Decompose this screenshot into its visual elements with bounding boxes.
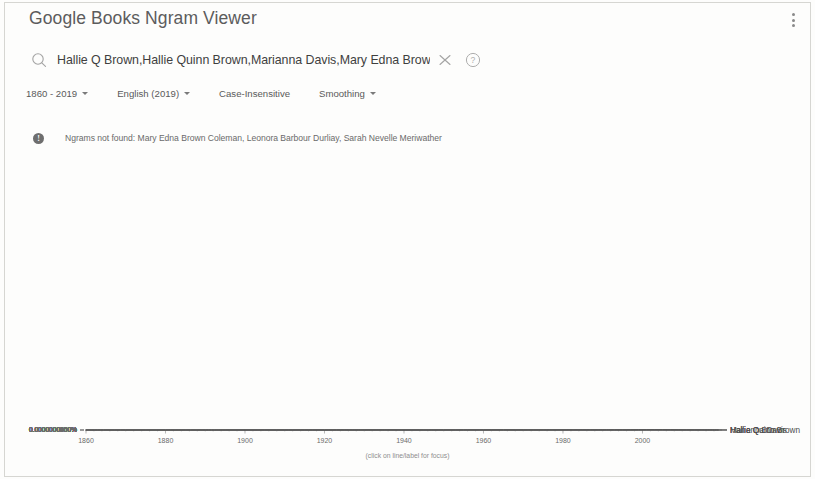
svg-text:?: ? <box>471 55 476 65</box>
search-bar: ? <box>29 47 484 73</box>
case-insensitive-label: Case-Insensitive <box>219 88 290 99</box>
series-label[interactable]: Hallie Q Brown <box>730 426 785 435</box>
x-tick-label: 1980 <box>555 437 571 444</box>
year-range-label: 1860 - 2019 <box>26 88 77 99</box>
page-background: Google Books Ngram Viewer ? <box>0 0 815 479</box>
x-tick-label: 1860 <box>78 437 94 444</box>
corpus-label: English (2019) <box>117 88 179 99</box>
page-title: Google Books Ngram Viewer <box>29 8 257 29</box>
chevron-down-icon <box>184 92 190 95</box>
x-tick-label: 1880 <box>158 437 174 444</box>
year-range-dropdown[interactable]: 1860 - 2019 <box>26 88 88 99</box>
series-labels[interactable]: Hallie Quinn BrownMarianna DavisHallie Q… <box>718 426 801 435</box>
chevron-down-icon <box>82 92 88 95</box>
chart-canvas[interactable]: 0.0000000000%0.0000000050%0.0000000100%0… <box>0 168 815 468</box>
kebab-dot <box>792 19 795 22</box>
search-icon <box>29 51 51 69</box>
kebab-dot <box>792 13 795 16</box>
kebab-dot <box>792 24 795 27</box>
x-tick-label: 1960 <box>476 437 492 444</box>
y-axis-ticks: 0.0000000000%0.0000000050%0.0000000100%0… <box>29 426 84 433</box>
control-bar: 1860 - 2019 English (2019) Case-Insensit… <box>26 88 376 99</box>
info-icon: ! <box>33 133 44 144</box>
x-tick-label: 1940 <box>396 437 412 444</box>
chevron-down-icon <box>370 92 376 95</box>
close-icon[interactable] <box>434 50 456 70</box>
ngram-chart[interactable]: 0.0000000000%0.0000000050%0.0000000100%0… <box>0 168 815 468</box>
smoothing-dropdown[interactable]: Smoothing <box>319 88 376 99</box>
ngrams-not-found-notice: ! Ngrams not found: Mary Edna Brown Cole… <box>33 133 442 144</box>
y-tick-label: 0.0000000600% <box>29 426 77 433</box>
case-insensitive-toggle[interactable]: Case-Insensitive <box>219 88 290 99</box>
kebab-menu-icon[interactable] <box>785 10 801 30</box>
search-input[interactable] <box>51 53 434 67</box>
x-tick-label: 2000 <box>635 437 651 444</box>
x-tick-label: 1900 <box>237 437 253 444</box>
x-axis-ticks: 18601880190019201940196019802000 <box>78 430 714 444</box>
smoothing-label: Smoothing <box>319 88 365 99</box>
notice-text: Ngrams not found: Mary Edna Brown Colema… <box>65 133 442 143</box>
help-circle-icon[interactable]: ? <box>462 50 484 70</box>
focus-hint-text: (click on line/label for focus) <box>0 452 815 459</box>
corpus-dropdown[interactable]: English (2019) <box>117 88 190 99</box>
x-tick-label: 1920 <box>317 437 333 444</box>
